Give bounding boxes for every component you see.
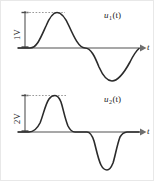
plot-u1-canvas xyxy=(1,1,154,89)
waveform-figure: u1(t) t 1V u2(t) t 2V xyxy=(0,0,154,181)
plot-u2-canvas xyxy=(1,89,154,181)
amplitude-axis-top xyxy=(22,11,29,48)
t-axis-label-top: t xyxy=(147,42,150,52)
signal-label-u1-arg: (t) xyxy=(113,10,122,20)
amplitude-axis-bottom xyxy=(22,94,29,132)
signal-label-u2: u2(t) xyxy=(104,94,121,105)
amplitude-label-1v: 1V xyxy=(12,29,22,40)
plot-u1: u1(t) t 1V xyxy=(1,1,154,89)
amplitude-label-2v: 2V xyxy=(12,113,22,124)
signal-label-u1: u1(t) xyxy=(104,10,121,21)
waveform-u1 xyxy=(18,13,139,82)
plot-u2: u2(t) t 2V xyxy=(1,89,154,181)
t-axis-label-bottom: t xyxy=(147,126,150,136)
signal-label-u2-arg: (t) xyxy=(113,94,122,104)
